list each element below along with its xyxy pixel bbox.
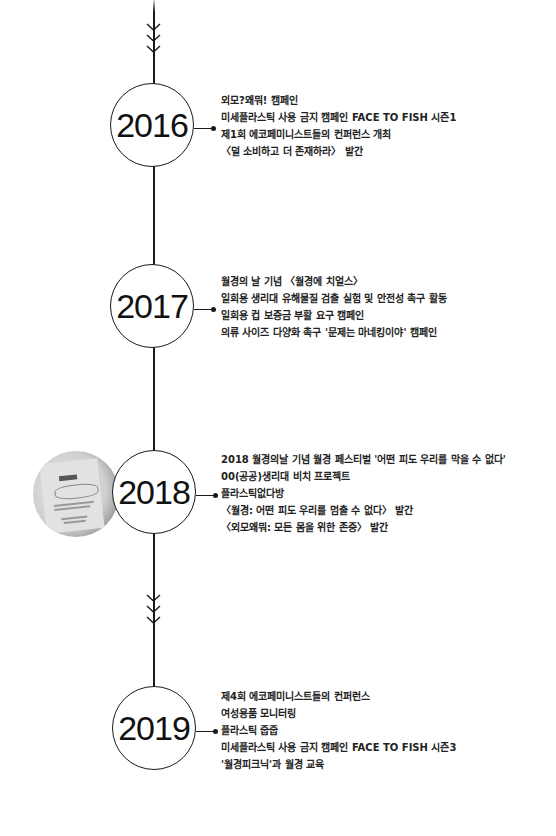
event-item: 의류 사이즈 다양화 촉구 '문제는 마네킹이야' 캠페인 (221, 324, 447, 341)
timeline-line (153, 346, 155, 452)
event-item: 〈월경: 어떤 피도 우리를 멈출 수 없다〉 발간 (221, 502, 506, 519)
event-list-2018: 2018 월경의날 기념 월경 페스티벌 '어떤 피도 우리를 막을 수 없다'… (221, 451, 506, 536)
package-label (59, 474, 77, 481)
event-item: 여성용품 모니터링 (221, 705, 456, 722)
event-item: 플라스틱 줍줍 (221, 722, 456, 739)
connector (196, 495, 216, 496)
connector (194, 128, 214, 129)
event-list-2016: 외모?왜뭐! 캠페인 미세플라스틱 사용 금지 캠페인 FACE TO FISH… (221, 92, 456, 160)
package-image (40, 458, 105, 534)
event-item: 2018 월경의날 기념 월경 페스티벌 '어떤 피도 우리를 막을 수 없다' (221, 451, 506, 468)
event-item: 일회용 컵 보증금 부활 요구 캠페인 (221, 307, 447, 324)
year-node-2017: 2017 (110, 264, 194, 348)
connector (196, 731, 216, 732)
event-list-2017: 월경의 날 기념 〈월경에 치얼스〉 일회용 생리대 유해물질 검출 실험 및 … (221, 273, 447, 341)
chevron-down-icon (145, 593, 162, 603)
event-item: 월경의 날 기념 〈월경에 치얼스〉 (221, 273, 447, 290)
year-node-2016: 2016 (110, 83, 194, 167)
event-item: 외모?왜뭐! 캠페인 (221, 92, 456, 109)
product-photo (33, 451, 119, 537)
event-item: 제4회 에코페미니스트들의 컨퍼런스 (221, 688, 456, 705)
event-list-2019: 제4회 에코페미니스트들의 컨퍼런스 여성용품 모니터링 플라스틱 줍줍 미세플… (221, 688, 456, 773)
year-label: 2018 (118, 473, 190, 512)
connector (194, 309, 214, 310)
year-node-2018: 2018 (112, 450, 196, 534)
event-item: 미세플라스틱 사용 금지 캠페인 FACE TO FISH 시즌1 (221, 109, 456, 126)
event-item: 〈외모왜뭐: 모든 몸을 위한 존중〉 발간 (221, 519, 506, 536)
year-label: 2016 (116, 106, 188, 145)
chevron-down-icon (145, 604, 162, 614)
event-item: 플라스틱없다방 (221, 485, 506, 502)
event-item: '월경피크닉'과 월경 교육 (221, 756, 456, 773)
event-item: 00(공공)생리대 비치 프로젝트 (221, 468, 506, 485)
event-item: 제1회 에코페미니스트들의 컨퍼런스 개최 (221, 126, 456, 143)
event-item: 일회용 생리대 유해물질 검출 실험 및 안전성 촉구 활동 (221, 290, 447, 307)
package-text (64, 520, 86, 524)
year-label: 2017 (116, 287, 188, 326)
timeline-line (153, 166, 155, 266)
pad-illustration (54, 482, 99, 501)
chevron-down-icon (145, 33, 162, 43)
chevron-down-icon (145, 22, 162, 32)
chevron-down-icon (145, 615, 162, 625)
year-node-2019: 2019 (112, 686, 196, 770)
event-item: 미세플라스틱 사용 금지 캠페인 FACE TO FISH 시즌3 (221, 739, 456, 756)
chevron-down-icon (145, 44, 162, 54)
event-item: 〈덜 소비하고 더 존재하라〉 발간 (221, 143, 456, 160)
year-label: 2019 (118, 709, 190, 748)
